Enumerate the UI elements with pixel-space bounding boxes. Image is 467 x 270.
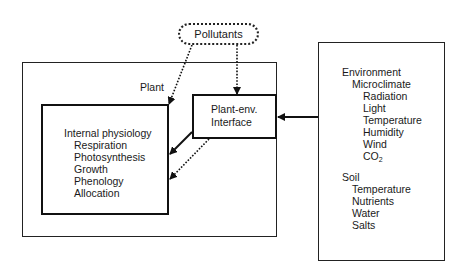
microclimate-item-humidity: Humidity (342, 126, 422, 138)
physiology-item-phenology: Phenology (64, 175, 152, 187)
pollutants-node: Pollutants (178, 23, 259, 45)
physiology-item-photosynthesis: Photosynthesis (64, 151, 152, 163)
interface-line-1: Plant-env. (211, 103, 258, 116)
pollutants-label: Pollutants (194, 28, 242, 40)
physiology-item-allocation: Allocation (64, 187, 152, 199)
soil-item-water: Water (342, 207, 422, 219)
soil-heading: Soil (342, 171, 422, 183)
co2-subscript: 2 (379, 156, 383, 163)
environment-text: Environment Microclimate Radiation Light… (342, 66, 422, 231)
internal-physiology-text: Internal physiology Respiration Photosyn… (64, 127, 152, 199)
soil-item-salts: Salts (342, 219, 422, 231)
microclimate-item-co2: CO2 (342, 150, 422, 166)
environment-heading: Environment (342, 66, 422, 78)
physiology-item-growth: Growth (64, 163, 152, 175)
microclimate-item-radiation: Radiation (342, 90, 422, 102)
plant-env-interface-text: Plant-env. Interface (211, 103, 258, 128)
internal-physiology-heading: Internal physiology (64, 127, 152, 139)
microclimate-item-wind: Wind (342, 138, 422, 150)
physiology-item-respiration: Respiration (64, 139, 152, 151)
microclimate-item-temperature: Temperature (342, 114, 422, 126)
microclimate-item-light: Light (342, 102, 422, 114)
soil-item-temperature: Temperature (342, 183, 422, 195)
interface-line-2: Interface (211, 116, 258, 129)
plant-label: Plant (140, 81, 164, 93)
co2-base: CO (363, 150, 379, 162)
microclimate-heading: Microclimate (342, 78, 422, 90)
soil-item-nutrients: Nutrients (342, 195, 422, 207)
